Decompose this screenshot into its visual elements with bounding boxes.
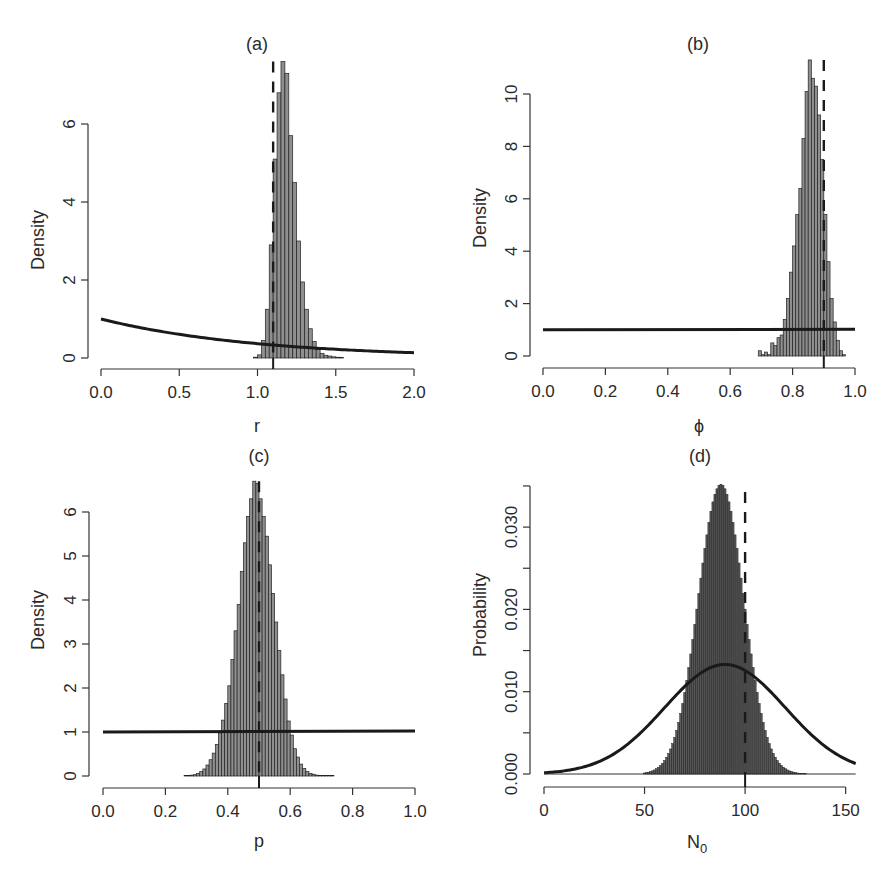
y-tick-label: 6 bbox=[60, 119, 79, 128]
histogram-bar bbox=[312, 342, 316, 358]
histogram-bar bbox=[718, 485, 720, 774]
x-tick-label: 1.0 bbox=[246, 383, 270, 402]
histogram-bar bbox=[289, 136, 293, 358]
histogram-bar bbox=[678, 722, 680, 774]
histogram-bar bbox=[730, 511, 732, 774]
histogram-bar bbox=[740, 578, 742, 774]
panel-d-xlabel-main: N bbox=[687, 832, 700, 852]
histogram-bar bbox=[306, 772, 309, 776]
histogram-bar bbox=[243, 543, 246, 776]
histogram-bar bbox=[756, 693, 758, 774]
histogram-bar bbox=[300, 764, 303, 776]
histogram-bar bbox=[672, 744, 674, 774]
histogram-bar bbox=[662, 763, 664, 774]
histogram-bar bbox=[660, 765, 662, 774]
histogram-bar bbox=[734, 535, 736, 774]
histogram-bar bbox=[765, 352, 768, 356]
histogram-bar bbox=[285, 73, 289, 358]
histogram-bar bbox=[275, 622, 278, 776]
x-tick-label: 50 bbox=[635, 801, 654, 820]
histogram-bar bbox=[830, 298, 833, 356]
histogram-bar bbox=[200, 772, 203, 776]
panel-c-xlabel: p bbox=[254, 831, 264, 851]
x-tick-label: 150 bbox=[831, 801, 859, 820]
y-tick-label: 0.010 bbox=[502, 670, 521, 713]
x-tick-label: 0 bbox=[539, 801, 548, 820]
histogram-bar bbox=[774, 346, 777, 356]
histogram-bar bbox=[710, 511, 712, 774]
panel-b-title: (b) bbox=[687, 34, 709, 54]
histogram-bar bbox=[784, 769, 786, 774]
histogram-bar bbox=[287, 721, 290, 776]
x-tick-label: 0.0 bbox=[91, 802, 115, 821]
histogram-bar bbox=[215, 744, 218, 776]
panel-a-histogram bbox=[254, 62, 344, 358]
x-tick-label: 0.8 bbox=[781, 382, 805, 401]
histogram-bar bbox=[839, 351, 842, 356]
histogram-bar bbox=[336, 357, 340, 358]
histogram-bar bbox=[746, 625, 748, 774]
prior-curve bbox=[543, 329, 855, 330]
histogram-bar bbox=[259, 499, 262, 776]
histogram-bar bbox=[666, 757, 668, 774]
histogram-bar bbox=[728, 502, 730, 774]
panel-c: (c) p Density 01234560.00.20.40.60.81.0 bbox=[28, 446, 427, 851]
x-tick-label: 0.0 bbox=[89, 383, 113, 402]
histogram-bar bbox=[209, 760, 212, 776]
histogram-bar bbox=[281, 675, 284, 776]
panel-d-xlabel: N0 bbox=[687, 832, 707, 856]
histogram-bar bbox=[774, 757, 776, 774]
histogram-bar bbox=[793, 246, 796, 356]
panel-b-xlabel: ϕ bbox=[694, 416, 704, 436]
histogram-bar bbox=[805, 91, 808, 356]
histogram-bar bbox=[278, 651, 281, 776]
x-tick-label: 0.2 bbox=[154, 802, 178, 821]
histogram-bar bbox=[776, 761, 778, 774]
x-tick-label: 2.0 bbox=[402, 383, 426, 402]
panel-c-title: (c) bbox=[249, 446, 270, 466]
histogram-bar bbox=[684, 693, 686, 774]
x-tick-label: 0.6 bbox=[718, 382, 742, 401]
x-tick-label: 0.6 bbox=[278, 802, 302, 821]
histogram-bar bbox=[814, 86, 817, 356]
histogram-bar bbox=[212, 753, 215, 776]
histogram-bar bbox=[262, 516, 265, 776]
panel-a-title: (a) bbox=[246, 34, 268, 54]
x-tick-label: 0.2 bbox=[594, 382, 618, 401]
histogram-bar bbox=[222, 720, 225, 776]
histogram-bar bbox=[324, 355, 328, 358]
histogram-bar bbox=[700, 578, 702, 774]
panel-b: (b) ϕ Density 02468100.00.20.40.60.81.0 bbox=[470, 34, 867, 436]
histogram-bar bbox=[808, 60, 811, 356]
histogram-bar bbox=[258, 355, 262, 358]
y-tick-label: 2 bbox=[502, 299, 521, 308]
histogram-bar bbox=[786, 770, 788, 774]
histogram-bar bbox=[736, 549, 738, 774]
histogram-bar bbox=[772, 753, 774, 774]
histogram-bar bbox=[193, 775, 196, 776]
histogram-bar bbox=[682, 704, 684, 774]
figure-canvas: (a) r Density 02460.00.51.01.52.0 (b) ϕ … bbox=[0, 0, 895, 880]
histogram-bar bbox=[742, 594, 744, 774]
histogram-bar bbox=[761, 355, 764, 356]
histogram-bar bbox=[271, 593, 274, 776]
histogram-bar bbox=[265, 309, 269, 358]
histogram-bar bbox=[716, 489, 718, 774]
x-tick-label: 1.5 bbox=[324, 383, 348, 402]
x-tick-label: 0.5 bbox=[167, 383, 191, 402]
histogram-bar bbox=[692, 640, 694, 774]
histogram-bar bbox=[218, 733, 221, 776]
histogram-bar bbox=[748, 640, 750, 774]
histogram-bar bbox=[771, 343, 774, 356]
y-tick-label: 2 bbox=[61, 683, 80, 692]
histogram-bar bbox=[696, 609, 698, 774]
histogram-bar bbox=[780, 765, 782, 774]
histogram-bar bbox=[778, 763, 780, 774]
histogram-bar bbox=[770, 749, 772, 774]
histogram-bar bbox=[802, 139, 805, 356]
histogram-bar bbox=[304, 309, 308, 358]
y-tick-label: 6 bbox=[61, 507, 80, 516]
histogram-bar bbox=[237, 604, 240, 776]
y-tick-label: 10 bbox=[502, 85, 521, 104]
histogram-bar bbox=[316, 349, 320, 358]
